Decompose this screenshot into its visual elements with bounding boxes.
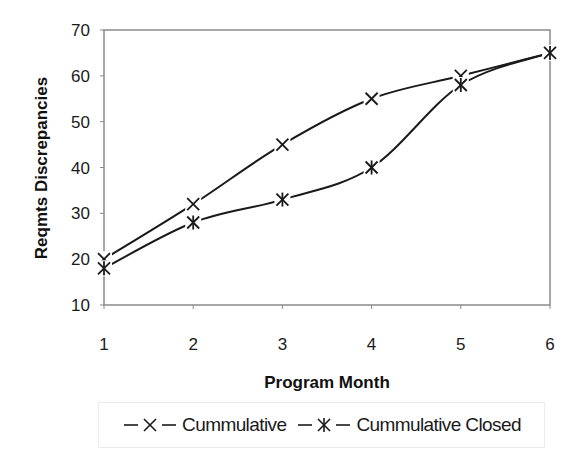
legend-item-cummulative-closed: Cummulative Closed bbox=[296, 414, 521, 436]
y-tick-label: 60 bbox=[71, 67, 90, 86]
x-axis-title: Program Month bbox=[264, 373, 390, 392]
x-tick-label: 5 bbox=[456, 335, 465, 354]
asterisk-marker-icon bbox=[96, 260, 112, 276]
line-chart: 123456 10203040506070 Reqmts Discrepanci… bbox=[0, 0, 581, 469]
legend: Cummulative Cummulative Closed bbox=[98, 402, 545, 448]
asterisk-marker-icon bbox=[296, 415, 352, 435]
legend-item-cummulative: Cummulative bbox=[122, 414, 286, 436]
x-tick-label: 4 bbox=[367, 335, 376, 354]
asterisk-marker-icon bbox=[453, 77, 469, 93]
y-tick-label: 70 bbox=[71, 21, 90, 40]
legend-label: Cummulative Closed bbox=[356, 414, 521, 436]
legend-label: Cummulative bbox=[182, 414, 286, 436]
x-tick-label: 6 bbox=[545, 335, 554, 354]
y-tick-label: 40 bbox=[71, 159, 90, 178]
x-marker-icon bbox=[122, 415, 178, 435]
x-tick-label: 1 bbox=[99, 335, 108, 354]
asterisk-marker-icon bbox=[542, 45, 558, 61]
y-tick-label: 30 bbox=[71, 204, 90, 223]
x-axis-ticks: 123456 bbox=[99, 305, 554, 354]
asterisk-marker-icon bbox=[364, 160, 380, 176]
asterisk-marker-icon bbox=[274, 192, 290, 208]
x-marker-icon bbox=[364, 91, 380, 107]
x-marker-icon bbox=[185, 196, 201, 212]
x-tick-label: 3 bbox=[278, 335, 287, 354]
x-tick-label: 2 bbox=[188, 335, 197, 354]
y-axis-title: Reqmts Discrepancies bbox=[32, 77, 51, 259]
x-marker-icon bbox=[274, 137, 290, 153]
y-tick-label: 20 bbox=[71, 250, 90, 269]
asterisk-marker-icon bbox=[185, 215, 201, 231]
y-tick-label: 50 bbox=[71, 113, 90, 132]
y-tick-label: 10 bbox=[71, 296, 90, 315]
plot-area bbox=[104, 30, 550, 305]
